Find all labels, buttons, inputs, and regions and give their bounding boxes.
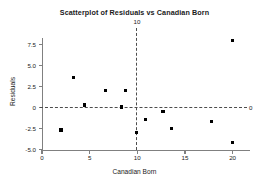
scatter-point: [144, 118, 147, 121]
y-tick-mark: [39, 65, 43, 66]
y-axis-title: Residuals: [9, 62, 16, 122]
y-tick-label: -5.0: [6, 146, 36, 153]
x-tick-label: 0: [29, 154, 55, 161]
y-axis-line: [42, 38, 43, 150]
y-tick-label: -2.5: [6, 125, 36, 132]
scatter-point: [231, 39, 234, 42]
y-tick-label: 5.0: [6, 62, 36, 69]
y-tick-mark: [39, 86, 43, 87]
scatter-point: [161, 110, 164, 113]
x-tick-label: 15: [172, 154, 198, 161]
scatter-point: [83, 103, 86, 106]
scatter-point: [210, 120, 213, 123]
x-tick-label: 20: [220, 154, 246, 161]
scatter-point: [120, 105, 123, 108]
scatter-point: [170, 127, 173, 130]
scatterplot-figure: Scatterplot of Residuals vs Canadian Bor…: [0, 0, 269, 194]
chart-title: Scatterplot of Residuals vs Canadian Bor…: [0, 8, 269, 17]
y-tick-label: 0: [6, 104, 36, 111]
x-axis-title: Canadian Born: [0, 168, 269, 175]
y-tick-mark: [39, 128, 43, 129]
y-tick-mark: [39, 44, 43, 45]
scatter-point: [104, 89, 107, 92]
x-tick-label: 5: [77, 154, 103, 161]
scatter-point: [135, 131, 138, 134]
scatter-point: [124, 89, 127, 92]
zero-reference-line: [40, 107, 247, 108]
x-axis-line: [42, 150, 250, 151]
scatter-point: [72, 76, 75, 79]
ten-reference-label: 10: [129, 18, 145, 25]
y-tick-label: 7.5: [6, 41, 36, 48]
scatter-point: [231, 141, 234, 144]
scatter-point: [59, 128, 62, 131]
x-tick-label: 10: [124, 154, 150, 161]
zero-reference-label: 0: [249, 104, 252, 111]
y-tick-label: 2.5: [6, 83, 36, 90]
